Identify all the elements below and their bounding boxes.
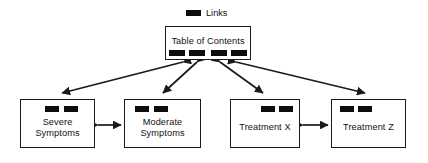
node-moderate-symptoms[interactable]: Moderate Symptoms — [124, 99, 201, 148]
link-bar[interactable] — [169, 50, 185, 56]
node-table-of-contents[interactable]: Table of Contents — [165, 26, 251, 60]
node-label-treatment-z: Treatment Z — [332, 122, 405, 133]
legend: Links — [186, 8, 227, 18]
link-bar[interactable] — [358, 106, 372, 112]
link-bar[interactable] — [154, 106, 168, 112]
node-severe-symptoms[interactable]: Severe Symptoms — [20, 99, 95, 148]
link-bar[interactable] — [279, 106, 293, 112]
link-bar[interactable] — [189, 50, 205, 56]
node-label-severe-symptoms: Severe Symptoms — [21, 117, 94, 139]
link-bar[interactable] — [261, 106, 275, 112]
diagram-canvas: Links Table of Contents Severe Symptoms … — [0, 0, 428, 163]
link-bar[interactable] — [231, 50, 247, 56]
link-bars-treatment-x — [261, 106, 293, 112]
connector-toc-severe — [62, 62, 183, 93]
link-bar-swatch-icon — [186, 10, 201, 16]
link-bar[interactable] — [45, 106, 59, 112]
node-treatment-z[interactable]: Treatment Z — [331, 99, 406, 148]
link-bar[interactable] — [340, 106, 354, 112]
link-bar[interactable] — [211, 50, 227, 56]
link-bars-table-of-contents — [169, 50, 247, 56]
node-label-treatment-x: Treatment X — [231, 122, 299, 133]
link-bars-severe-symptoms — [45, 106, 78, 112]
legend-label: Links — [206, 8, 227, 18]
node-label-table-of-contents: Table of Contents — [166, 36, 250, 47]
link-bar[interactable] — [64, 106, 78, 112]
link-bar[interactable] — [135, 106, 149, 112]
link-bars-treatment-z — [340, 106, 372, 112]
link-bars-moderate-symptoms — [135, 106, 168, 112]
node-treatment-x[interactable]: Treatment X — [230, 99, 300, 148]
node-label-moderate-symptoms: Moderate Symptoms — [125, 117, 200, 139]
